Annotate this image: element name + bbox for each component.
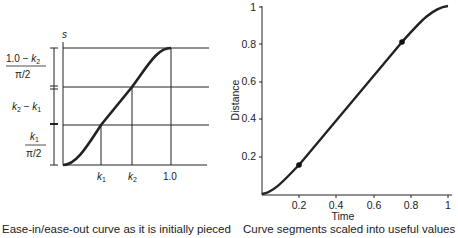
svg-text:0.8: 0.8 xyxy=(241,38,256,50)
right-x-tick-labels: 0.2 0.4 0.6 0.8 1 xyxy=(292,199,451,211)
svg-text:π/2: π/2 xyxy=(15,69,31,80)
left-diagram xyxy=(50,42,209,165)
svg-text:1: 1 xyxy=(445,199,451,211)
svg-text:k1: k1 xyxy=(30,131,39,143)
svg-text:0.4: 0.4 xyxy=(241,112,256,124)
ease-curve xyxy=(63,48,171,165)
brace-label-bottom: k1 π/2 xyxy=(25,131,46,159)
svg-text:k2 − k1: k2 − k1 xyxy=(12,101,41,113)
right-caption: Curve segments scaled into useful values xyxy=(243,223,455,235)
right-x-label: Time xyxy=(332,210,355,222)
svg-text:0.2: 0.2 xyxy=(292,199,307,211)
brace-label-middle: k2 − k1 xyxy=(12,101,41,113)
brace-label-top: 1.0 − k2 π/2 xyxy=(6,53,46,80)
right-y-label: Distance xyxy=(229,79,241,120)
figure-canvas: s 1.0 − k2 π/2 k2 − k1 k1 π/2 k1 k2 1.0 xyxy=(0,0,458,238)
svg-text:1: 1 xyxy=(250,1,256,13)
left-y-label: s xyxy=(62,29,67,40)
left-caption: Ease-in/ease-out curve as it is initiall… xyxy=(2,223,231,235)
svg-text:1.0: 1.0 xyxy=(163,171,177,182)
curve-marker-upper xyxy=(399,39,405,45)
svg-text:0.6: 0.6 xyxy=(241,75,256,87)
svg-text:π/2: π/2 xyxy=(26,148,42,159)
svg-text:0.6: 0.6 xyxy=(367,199,382,211)
svg-text:1.0 − k2: 1.0 − k2 xyxy=(6,53,40,65)
right-y-tick-labels: 0.2 0.4 0.6 0.8 1 xyxy=(241,1,256,162)
svg-text:k2: k2 xyxy=(128,171,137,183)
left-x-ticks: k1 k2 1.0 xyxy=(97,171,177,183)
curve-marker-lower xyxy=(296,162,302,168)
svg-text:0.8: 0.8 xyxy=(404,199,419,211)
svg-text:0.2: 0.2 xyxy=(241,150,256,162)
distance-curve xyxy=(262,6,448,194)
svg-text:k1: k1 xyxy=(97,171,106,183)
right-chart xyxy=(259,6,452,198)
